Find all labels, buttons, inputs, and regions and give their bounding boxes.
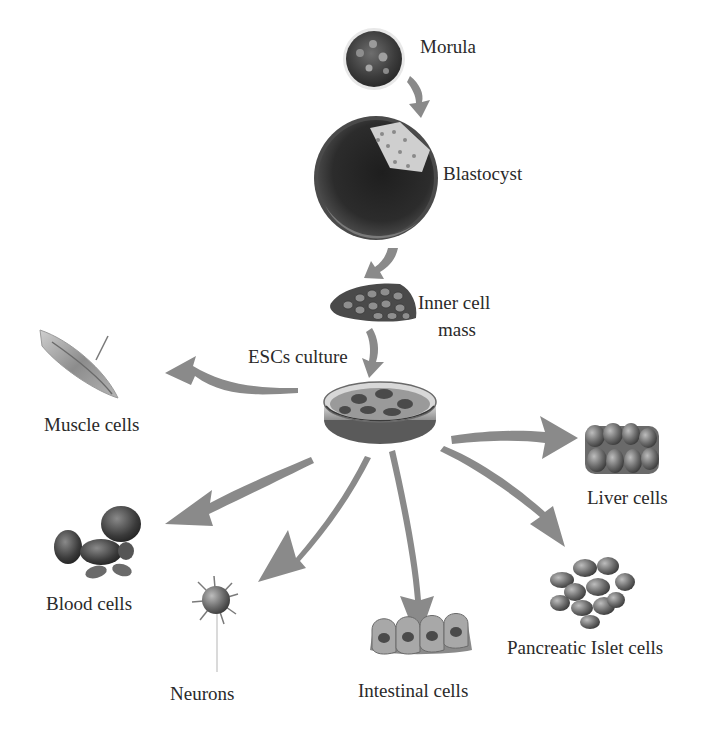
blastocyst-icon <box>314 116 438 240</box>
arrow-to-pancreatic <box>440 446 565 547</box>
neuron-icon <box>192 576 238 672</box>
label-blastocyst: Blastocyst <box>443 163 522 185</box>
arrow-morula-to-blastocyst <box>407 76 430 118</box>
label-inner-cell-mass-line1: Inner cell <box>418 292 490 314</box>
arrow-icm-to-culture <box>362 328 384 378</box>
label-neurons: Neurons <box>170 683 234 705</box>
label-intestinal-cells: Intestinal cells <box>358 680 468 702</box>
muscle-cell-icon <box>40 330 118 398</box>
label-muscle-cells: Muscle cells <box>44 414 140 436</box>
esc-differentiation-diagram: Morula Blastocyst Inner cell mass ESCs c… <box>0 0 726 736</box>
label-esc-culture: ESCs culture <box>248 346 348 368</box>
label-liver-cells: Liver cells <box>587 487 668 509</box>
label-pancreatic-islet-cells: Pancreatic Islet cells <box>507 637 663 659</box>
arrow-to-intestinal <box>389 450 434 642</box>
petri-dish-icon <box>324 382 436 444</box>
arrow-to-blood <box>165 457 314 526</box>
arrow-to-liver <box>451 416 578 459</box>
label-inner-cell-mass-line2: mass <box>438 319 476 341</box>
blood-cells-icon <box>54 506 141 581</box>
liver-cells-icon <box>585 423 659 474</box>
diagram-canvas <box>0 0 726 736</box>
label-morula: Morula <box>420 36 476 58</box>
inner-cell-mass-icon <box>330 283 416 321</box>
label-blood-cells: Blood cells <box>46 593 132 615</box>
pancreatic-islet-cells-icon <box>550 557 635 629</box>
morula-icon <box>343 28 405 90</box>
arrow-blastocyst-to-icm <box>364 248 398 279</box>
